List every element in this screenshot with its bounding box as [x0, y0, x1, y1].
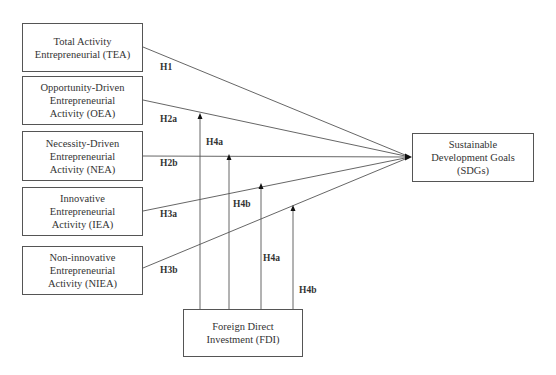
iv-box-niea: Non-innovative Entrepreneurial Activity … — [22, 246, 143, 295]
arrowhead-icon — [198, 113, 203, 119]
hypothesis-label-h1: H1 — [160, 62, 172, 72]
hypothesis-label-h4b: H4b — [233, 199, 250, 209]
sdgs-box: Sustainable Development Goals (SDGs) — [412, 133, 534, 182]
fdi-moderator-box: Foreign Direct Investment (FDI) — [183, 309, 303, 357]
hypothesis-label-h3b: H3b — [160, 265, 177, 275]
arrowhead-icon — [259, 183, 264, 189]
iv-box-nea: Necessity-Driven Entrepreneurial Activit… — [22, 131, 143, 181]
iv-label: Innovative Entrepreneurial Activity (IEA… — [50, 192, 115, 231]
hypothesis-label-h4b: H4b — [299, 285, 316, 295]
iv-label: Total Activity Entrepreneurial (TEA) — [35, 35, 130, 61]
hypothesis-label-h2b: H2b — [160, 158, 177, 168]
iv-label: Opportunity-Driven Entrepreneurial Activ… — [41, 81, 125, 120]
hypothesis-label-h4a: H4a — [263, 253, 280, 263]
hypothesis-label-h2a: H2a — [160, 114, 177, 124]
iv-box-iea: Innovative Entrepreneurial Activity (IEA… — [22, 187, 143, 236]
iv-label: Non-innovative Entrepreneurial Activity … — [48, 251, 117, 290]
fdi-label: Foreign Direct Investment (FDI) — [206, 320, 279, 346]
iv-box-oea: Opportunity-Driven Entrepreneurial Activ… — [22, 76, 143, 125]
iv-box-tea: Total Activity Entrepreneurial (TEA) — [22, 23, 143, 72]
iv-label: Necessity-Driven Entrepreneurial Activit… — [46, 137, 119, 176]
arrowhead-icon — [405, 154, 412, 161]
hypothesis-label-h3a: H3a — [160, 209, 177, 219]
hypothesis-label-h4a: H4a — [206, 137, 223, 147]
arrowhead-icon — [227, 154, 232, 160]
sdgs-label: Sustainable Development Goals (SDGs) — [431, 138, 515, 177]
